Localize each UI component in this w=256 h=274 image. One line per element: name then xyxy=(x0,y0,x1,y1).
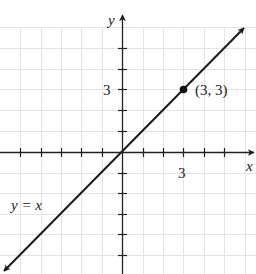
x-axis-label: x xyxy=(245,158,253,174)
x-tick-label-3: 3 xyxy=(178,165,186,181)
graph-y-equals-x: y x 3 3 (3, 3) y = x xyxy=(0,0,256,274)
point-3-3 xyxy=(180,86,188,94)
y-tick-label-3: 3 xyxy=(103,82,111,98)
y-axis-label: y xyxy=(106,12,115,28)
point-label: (3, 3) xyxy=(195,82,228,99)
line-equation-label: y = x xyxy=(9,197,42,213)
